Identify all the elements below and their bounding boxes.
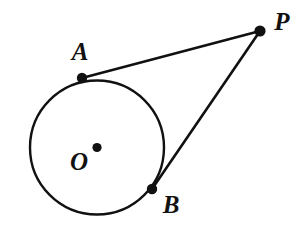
point-label-b: B [162,191,180,218]
point-label-a: A [70,38,89,65]
point-dot-p [254,25,265,36]
geometry-canvas: A B P O [0,0,297,231]
point-dot-a [77,73,87,83]
point-label-o: O [70,148,88,175]
point-label-p: P [273,8,290,35]
geometry-diagram: A B P O [0,0,297,231]
point-dot-o-center [92,143,101,152]
point-dot-b [147,184,157,194]
